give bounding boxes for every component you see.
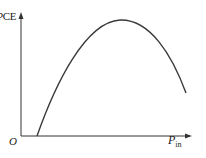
y-axis-label: PCE [0,10,16,22]
x-axis-label: Pin [168,133,182,149]
x-axis-label-sub: in [175,140,181,149]
x-axis-arrow-icon [185,134,192,139]
pce-chart: PCE O Pin [0,0,206,158]
y-axis-arrow-icon [19,12,24,19]
pce-curve [37,20,186,136]
origin-label: O [9,135,17,147]
